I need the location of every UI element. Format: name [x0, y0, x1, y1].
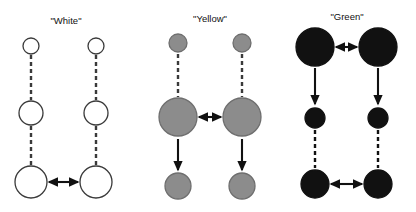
- node-circle-top: [88, 38, 104, 54]
- node-circle-bottom: [301, 170, 329, 198]
- node-circle-middle: [159, 98, 197, 136]
- node-circle-bottom: [364, 170, 392, 198]
- node-circle-bottom: [229, 173, 255, 199]
- panel-yellow-title: "Yellow": [193, 13, 227, 24]
- node-circle-middle: [368, 108, 388, 128]
- node-circle-top: [359, 28, 397, 66]
- node-circle-top: [23, 38, 39, 54]
- node-circle-top: [233, 34, 251, 52]
- node-circle-bottom: [165, 173, 191, 199]
- figure-background: [0, 0, 416, 212]
- panel-green-title: "Green": [330, 11, 363, 22]
- node-circle-middle: [223, 98, 261, 136]
- node-circle-middle: [84, 101, 108, 125]
- panel-white-title: "White": [50, 15, 81, 26]
- node-circle-middle: [305, 108, 325, 128]
- node-circle-top: [296, 28, 334, 66]
- node-circle-bottom: [15, 166, 47, 198]
- three-panel-circle-diagram: "White" "Yellow": [0, 0, 416, 212]
- node-circle-bottom: [80, 166, 112, 198]
- node-circle-middle: [19, 101, 43, 125]
- node-circle-top: [169, 34, 187, 52]
